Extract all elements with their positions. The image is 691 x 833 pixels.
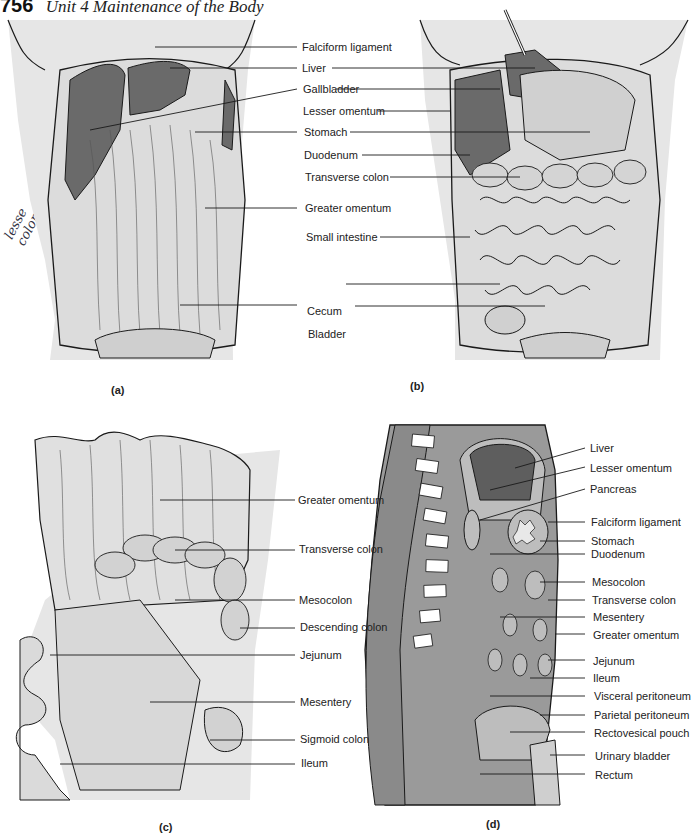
label-d-visceral-peritoneum: Visceral peritoneum [594,690,691,702]
label-small-intestine: Small intestine [306,231,378,243]
label-duodenum: Duodenum [304,149,358,161]
label-c-sigmoid-colon: Sigmoid colon [300,733,369,745]
label-greater-omentum: Greater omentum [305,202,391,214]
label-c-mesentery: Mesentery [300,696,351,708]
label-liver: Liver [302,62,326,74]
label-d-jejunum: Jejunum [593,655,635,667]
label-gallbladder: Gallbladder [303,83,359,95]
label-transverse-colon: Transverse colon [305,171,389,183]
panel-a-illustration [8,20,255,360]
label-d-mesentery: Mesentery [593,611,644,623]
label-c-descending-colon: Descending colon [300,621,387,633]
label-d-transverse-colon: Transverse colon [592,594,676,606]
label-d-ileum: Ileum [593,672,620,684]
label-d-pancreas: Pancreas [590,483,636,495]
label-d-duodenum: Duodenum [591,548,645,560]
label-c-transverse-colon: Transverse colon [299,543,383,555]
label-c-greater-omentum: Greater omentum [298,494,384,506]
label-d-mesocolon: Mesocolon [592,576,645,588]
anatomy-illustrations [0,0,691,833]
panel-d-illustration [365,425,560,805]
caption-d: (d) [486,818,500,830]
label-d-rectum: Rectum [595,769,633,781]
label-d-stomach: Stomach [591,535,634,547]
panel-b-illustration [420,10,688,360]
label-falciform-ligament: Falciform ligament [302,41,392,53]
label-d-parietal-peritoneum: Parietal peritoneum [594,709,689,721]
label-stomach: Stomach [304,126,347,138]
label-d-liver: Liver [590,442,614,454]
caption-c: (c) [159,821,172,833]
caption-b: (b) [410,380,424,392]
label-d-greater-omentum: Greater omentum [593,629,679,641]
caption-a: (a) [111,384,124,396]
label-d-urinary-bladder: Urinary bladder [595,750,670,762]
label-d-rectovesical-pouch: Rectovesical pouch [594,727,689,739]
label-bladder: Bladder [308,328,346,340]
label-lesser-omentum: Lesser omentum [303,105,385,117]
label-d-falciform-ligament: Falciform ligament [591,516,681,528]
label-cecum: Cecum [307,305,342,317]
panel-c-illustration [16,432,280,800]
label-c-mesocolon: Mesocolon [299,594,352,606]
label-c-ileum: Ileum [301,757,328,769]
label-c-jejunum: Jejunum [300,649,342,661]
label-d-lesser-omentum: Lesser omentum [590,462,672,474]
